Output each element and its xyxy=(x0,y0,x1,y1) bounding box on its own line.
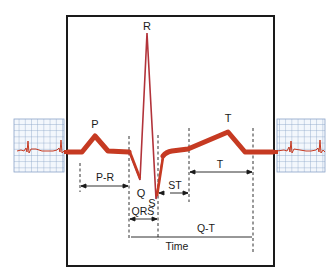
left-ecg-strip xyxy=(14,119,64,172)
label-q: Q xyxy=(137,187,146,199)
label-time: Time xyxy=(166,240,189,252)
ecg-diagram: P R Q S T P-R QRS ST T Q-T Time xyxy=(0,0,335,277)
label-p: P xyxy=(91,118,98,130)
right-ecg-strip xyxy=(277,119,325,172)
label-pr-interval: P-R xyxy=(96,171,115,183)
label-st-segment: ST xyxy=(168,179,182,191)
label-t-interval: T xyxy=(217,158,224,170)
label-qrs-interval: QRS xyxy=(132,205,155,217)
label-r: R xyxy=(143,20,151,32)
label-qt-interval: Q-T xyxy=(197,222,216,234)
label-t-wave: T xyxy=(225,112,232,124)
